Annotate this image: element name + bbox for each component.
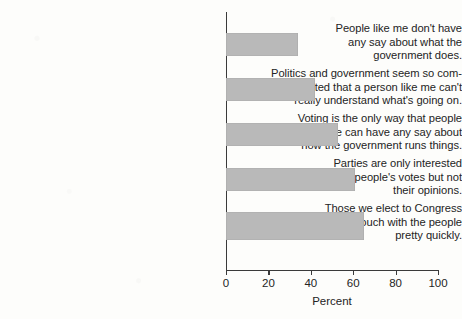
x-axis-line (226, 270, 438, 271)
x-tick-mark-0 (226, 270, 227, 275)
bar-0 (226, 33, 298, 56)
x-tick-label-1: 20 (262, 277, 275, 290)
bar-2 (226, 123, 338, 146)
horizontal-bar-chart: People like me don't have any say about … (0, 0, 462, 319)
x-tick-mark-1 (268, 270, 269, 275)
x-axis-title: Percent (226, 295, 438, 307)
x-tick-mark-2 (311, 270, 312, 275)
x-tick-label-3: 60 (347, 277, 360, 290)
x-tick-mark-5 (438, 270, 439, 275)
x-tick-label-5: 100 (428, 277, 447, 290)
x-tick-label-2: 40 (304, 277, 317, 290)
bar-1 (226, 78, 315, 101)
bar-4 (226, 212, 364, 240)
x-tick-mark-3 (353, 270, 354, 275)
x-tick-mark-4 (396, 270, 397, 275)
plot-area: 0 20 40 60 80 100 Percent (226, 12, 438, 270)
bar-3 (226, 168, 355, 191)
x-tick-label-0: 0 (223, 277, 229, 290)
x-tick-label-4: 80 (389, 277, 402, 290)
